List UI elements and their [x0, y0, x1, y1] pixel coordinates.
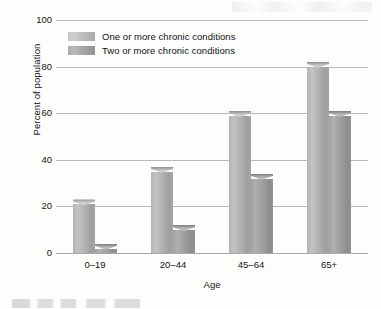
figure-container: Percent of population 020406080100 0–192…	[0, 0, 381, 309]
x-axis-tick-label: 20–44	[133, 259, 213, 270]
y-axis-tick-label: 40	[20, 154, 52, 165]
legend: One or more chronic conditions Two or mo…	[68, 30, 236, 58]
bar-body	[151, 172, 173, 253]
y-axis-tick-label: 60	[20, 107, 52, 118]
x-axis-title: Age	[56, 279, 368, 290]
bar-body	[307, 67, 329, 253]
x-axis-tick-label: 45–64	[211, 259, 291, 270]
bar-body	[73, 204, 95, 253]
bar	[329, 111, 351, 253]
bar-group	[290, 20, 368, 253]
bar	[73, 199, 95, 253]
page-bleed-top	[232, 2, 372, 12]
bar	[95, 244, 117, 253]
bar-body	[251, 179, 273, 253]
bar	[229, 111, 251, 253]
y-axis-tick-label: 20	[20, 200, 52, 211]
bar-body	[329, 116, 351, 253]
x-axis-tick-label: 0–19	[55, 259, 135, 270]
y-axis-tick-label: 0	[20, 247, 52, 258]
legend-swatch-icon	[68, 46, 95, 55]
y-axis-title: Percent of population	[31, 10, 42, 170]
bar	[251, 174, 273, 253]
y-axis-tick-label: 100	[20, 14, 52, 25]
legend-item: Two or more chronic conditions	[68, 44, 236, 57]
x-axis-tick-label: 65+	[289, 259, 369, 270]
gridline	[56, 253, 368, 254]
y-axis-tick-label: 80	[20, 61, 52, 72]
bar	[307, 62, 329, 253]
legend-item-label: One or more chronic conditions	[102, 31, 236, 42]
bar-body	[173, 230, 195, 253]
figure-caption-bleed	[12, 299, 140, 308]
bar-body	[229, 116, 251, 253]
legend-item-label: Two or more chronic conditions	[102, 45, 235, 56]
legend-item: One or more chronic conditions	[68, 30, 236, 43]
legend-swatch-icon	[68, 32, 95, 41]
bar	[173, 225, 195, 253]
bar	[151, 167, 173, 253]
